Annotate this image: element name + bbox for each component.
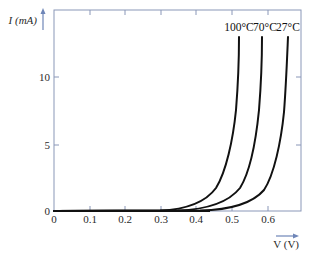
y-tick-0: 0 [45, 205, 51, 217]
legend-70c: 70°C [253, 21, 277, 33]
x-tick-0.4: 0.4 [189, 213, 203, 225]
x-tick-0: 0 [51, 213, 57, 225]
top-ticks [90, 10, 268, 15]
right-ticks [296, 77, 301, 145]
y-axis-title: I (mA) [8, 14, 38, 27]
x-tick-0.3: 0.3 [154, 213, 168, 225]
x-tick-0.1: 0.1 [83, 213, 97, 225]
legend-100c: 100°C [224, 21, 254, 33]
y-axis-arrow-icon [41, 8, 46, 30]
x-axis-title: V (V) [273, 238, 299, 251]
y-tick-10: 10 [39, 71, 51, 83]
x-tick-0.2: 0.2 [118, 213, 132, 225]
left-ticks [54, 77, 59, 145]
y-tick-5: 5 [45, 139, 51, 151]
x-tick-0.6: 0.6 [261, 213, 275, 225]
legend-27c: 27°C [276, 21, 300, 33]
plot-frame [54, 10, 301, 211]
curve-100c [54, 37, 239, 211]
curve-70c [54, 37, 262, 211]
iv-chart: 10 5 0 0 0.1 0.2 0.3 0.4 0.5 0.6 I (mA) … [0, 0, 314, 255]
x-tick-0.5: 0.5 [225, 213, 239, 225]
curves [54, 37, 288, 211]
curve-27c [54, 37, 288, 211]
